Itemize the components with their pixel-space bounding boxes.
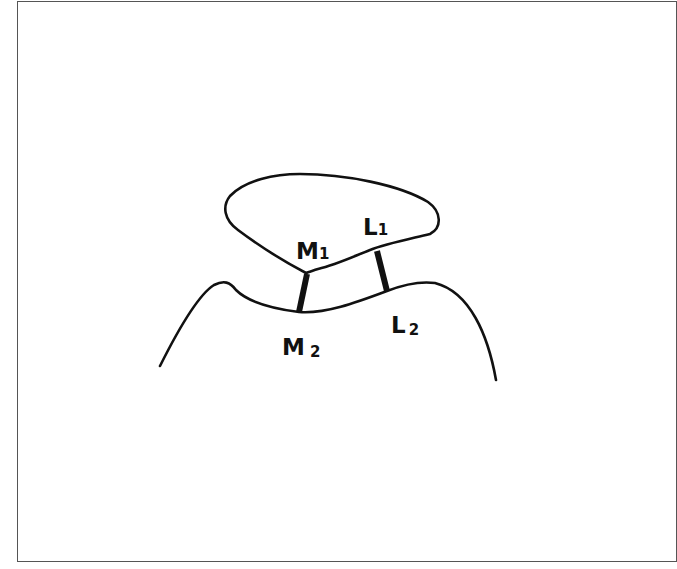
label-l1-subscript: 1 bbox=[378, 221, 388, 239]
label-l2-letter: L bbox=[391, 312, 406, 338]
label-m2-letter: M bbox=[282, 334, 305, 360]
label-l1-letter: L bbox=[363, 214, 378, 240]
l-connector-bar bbox=[377, 251, 387, 291]
label-m2: M2 bbox=[282, 336, 320, 359]
label-m1: M1 bbox=[296, 240, 329, 263]
label-l1: L1 bbox=[363, 216, 388, 239]
m-connector-bar bbox=[299, 274, 307, 312]
label-m1-subscript: 1 bbox=[319, 245, 329, 263]
label-m2-subscript: 2 bbox=[310, 343, 320, 361]
upper-contour bbox=[225, 174, 438, 273]
lower-contour bbox=[160, 282, 496, 380]
label-l2-subscript: 2 bbox=[409, 321, 419, 339]
label-m1-letter: M bbox=[296, 238, 319, 264]
label-l2: L2 bbox=[391, 314, 419, 337]
